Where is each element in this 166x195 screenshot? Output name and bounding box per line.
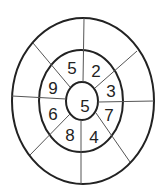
spoke-right [98,101,154,102]
number-wheel-diagram: 5 5 2 3 7 4 8 6 9 [0,0,166,195]
inner-number-top-left: 5 [67,59,76,78]
inner-number-top-right: 2 [91,62,100,81]
spoke-top [83,18,84,82]
inner-number-lower-right: 7 [104,106,113,125]
inner-number-upper-right: 3 [106,82,115,101]
inner-number-upper-left: 9 [48,79,57,98]
center-number: 5 [80,97,89,116]
inner-number-lower-left: 6 [48,105,57,124]
inner-number-bottom-left: 8 [65,126,74,145]
inner-number-bottom-right: 4 [89,128,98,147]
